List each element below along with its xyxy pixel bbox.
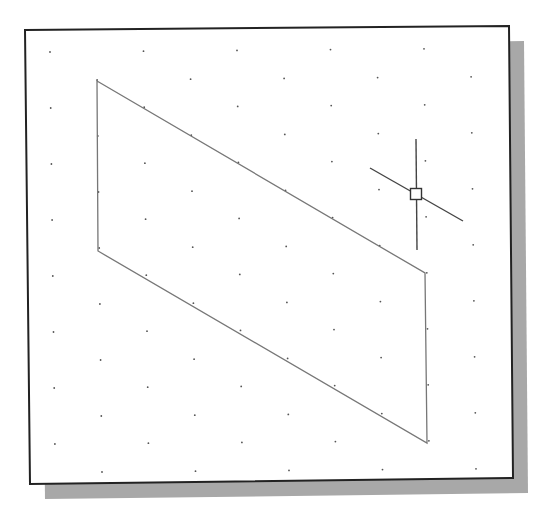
- grid-dot: [475, 468, 477, 470]
- grid-dot: [50, 107, 52, 109]
- grid-dot: [285, 246, 287, 248]
- grid-dot: [380, 357, 382, 359]
- grid-dot: [472, 188, 474, 190]
- grid-dot: [101, 471, 103, 473]
- grid-dot: [333, 329, 335, 331]
- grid-dot: [334, 385, 336, 387]
- grid-dot: [283, 78, 285, 80]
- grid-dot: [49, 51, 51, 53]
- pickbox-icon: [411, 189, 422, 200]
- drawing-viewport[interactable]: [0, 0, 539, 511]
- grid-dot: [335, 441, 337, 443]
- grid-dot: [192, 246, 194, 248]
- grid-dot: [240, 330, 242, 332]
- grid-dot: [331, 161, 333, 163]
- grid-dot: [51, 163, 53, 165]
- grid-dot: [143, 50, 145, 52]
- grid-dot: [195, 470, 197, 472]
- grid-dot: [100, 415, 102, 417]
- grid-dot: [332, 273, 334, 275]
- grid-dot: [288, 470, 290, 472]
- grid-dot: [425, 160, 427, 162]
- grid-dot: [423, 48, 425, 50]
- grid-dot: [287, 358, 289, 360]
- grid-dot: [474, 412, 476, 414]
- grid-dot: [193, 302, 195, 304]
- grid-dot: [193, 358, 195, 360]
- grid-dot: [470, 76, 472, 78]
- grid-dot: [377, 77, 379, 79]
- grid-dot: [239, 274, 241, 276]
- grid-dot: [284, 134, 286, 136]
- grid-dot: [53, 387, 55, 389]
- grid-dot: [425, 216, 427, 218]
- grid-dot: [241, 442, 243, 444]
- grid-dot: [428, 440, 430, 442]
- grid-dot: [240, 386, 242, 388]
- grid-dot: [237, 106, 239, 108]
- grid-dot: [471, 132, 473, 134]
- grid-dot: [145, 274, 147, 276]
- grid-dot: [52, 275, 54, 277]
- grid-dot: [148, 442, 150, 444]
- grid-dot: [238, 218, 240, 220]
- grid-dot: [472, 244, 474, 246]
- grid-dot: [377, 133, 379, 135]
- grid-dot: [426, 272, 428, 274]
- grid-dot: [144, 162, 146, 164]
- drawing-area-frame[interactable]: [25, 26, 513, 484]
- grid-dot: [194, 414, 196, 416]
- grid-dot: [146, 330, 148, 332]
- grid-dot: [382, 469, 384, 471]
- grid-dot: [100, 359, 102, 361]
- grid-dot: [330, 49, 332, 51]
- grid-dot: [53, 331, 55, 333]
- grid-dot: [381, 413, 383, 415]
- grid-dot: [54, 443, 56, 445]
- grid-dot: [191, 190, 193, 192]
- grid-dot: [473, 300, 475, 302]
- grid-dot: [427, 384, 429, 386]
- grid-dot: [51, 219, 53, 221]
- grid-dot: [380, 301, 382, 303]
- grid-dot: [145, 218, 147, 220]
- grid-dot: [378, 189, 380, 191]
- grid-dot: [330, 105, 332, 107]
- grid-dot: [427, 328, 429, 330]
- grid-dot: [287, 414, 289, 416]
- grid-dot: [236, 50, 238, 52]
- grid-dot: [474, 356, 476, 358]
- grid-dot: [99, 303, 101, 305]
- grid-dot: [190, 78, 192, 80]
- grid-dot: [286, 302, 288, 304]
- grid-dot: [147, 386, 149, 388]
- grid-dot: [424, 104, 426, 106]
